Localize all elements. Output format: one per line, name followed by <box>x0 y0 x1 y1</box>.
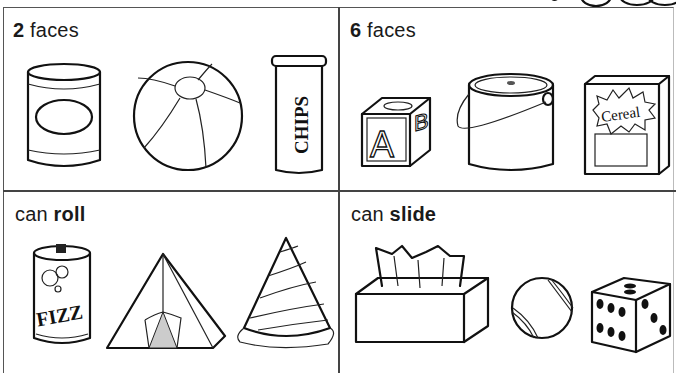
cell-title-2-faces: 2 faces <box>13 19 79 42</box>
cell-title-can-slide: can slide <box>351 203 436 226</box>
cereal-label: Cereal <box>600 104 641 125</box>
tennis-ball-icon <box>510 276 576 342</box>
svg-text:A: A <box>370 124 394 165</box>
abc-block-icon: A B <box>360 94 440 170</box>
tissue-box-icon <box>354 246 494 350</box>
tent-icon <box>105 252 229 352</box>
chips-tube-icon: CHIPS <box>270 54 330 178</box>
paint-bucket-icon <box>454 72 558 176</box>
cell-title-6-faces: 6 faces <box>350 19 416 42</box>
svg-text:B: B <box>414 108 429 136</box>
soup-can-icon <box>27 62 107 172</box>
grid-divider-horizontal <box>3 190 676 192</box>
beach-ball-icon <box>132 58 244 174</box>
die-icon <box>590 274 672 354</box>
cell-title-can-roll: can roll <box>15 203 86 226</box>
cereal-box-icon: Cereal <box>583 74 673 176</box>
party-hat-icon <box>238 236 334 354</box>
decoration-icon <box>530 0 670 10</box>
soda-can-icon: FIZZ <box>32 242 96 350</box>
fizz-label: FIZZ <box>35 301 85 331</box>
chips-label: CHIPS <box>291 96 312 154</box>
